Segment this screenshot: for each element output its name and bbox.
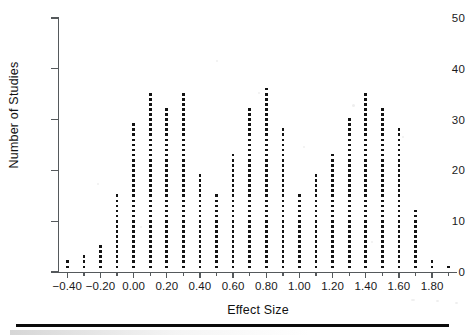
data-dot xyxy=(364,169,367,172)
data-dot xyxy=(165,225,168,228)
data-dot xyxy=(381,245,384,248)
data-dot xyxy=(315,184,318,187)
footer-rule xyxy=(16,324,449,327)
data-dot xyxy=(199,260,202,263)
data-dot xyxy=(348,235,351,238)
data-dot xyxy=(165,118,168,121)
data-dot xyxy=(232,260,235,263)
data-dot xyxy=(116,200,119,203)
data-dot xyxy=(149,98,152,101)
data-dot xyxy=(149,154,152,157)
data-dot xyxy=(414,210,417,213)
data-dot xyxy=(265,266,268,269)
x-tick-mark xyxy=(431,272,432,278)
data-dot xyxy=(149,103,152,106)
data-dot xyxy=(265,123,268,126)
data-dot xyxy=(215,220,218,223)
dot-column xyxy=(232,18,235,272)
data-dot xyxy=(315,230,318,233)
data-dot xyxy=(99,250,102,253)
data-dot xyxy=(199,255,202,258)
data-dot xyxy=(248,169,251,172)
dot-column xyxy=(282,18,285,272)
data-dot xyxy=(282,164,285,167)
dot-plot-figure: 01020304050 −0.40−0.200.000.200.400.600.… xyxy=(0,0,465,335)
data-dot xyxy=(215,205,218,208)
data-dot xyxy=(99,255,102,258)
data-dot xyxy=(116,194,119,197)
data-dot xyxy=(398,133,401,136)
data-dot xyxy=(381,144,384,147)
x-minor-tick-mark xyxy=(249,272,250,276)
data-dot xyxy=(364,93,367,96)
data-dot xyxy=(381,260,384,263)
data-dot xyxy=(132,169,135,172)
data-dot xyxy=(265,113,268,116)
data-dot xyxy=(199,200,202,203)
data-dot xyxy=(298,235,301,238)
scan-speckle xyxy=(411,299,415,301)
data-dot xyxy=(364,184,367,187)
data-dot xyxy=(165,245,168,248)
data-dot xyxy=(248,128,251,131)
dot-column xyxy=(248,18,251,272)
data-dot xyxy=(248,159,251,162)
data-dot xyxy=(398,255,401,258)
data-dot xyxy=(431,266,434,269)
data-dot xyxy=(149,240,152,243)
data-dot xyxy=(66,266,69,269)
data-dot xyxy=(265,194,268,197)
y-tick-mark xyxy=(51,221,58,222)
data-dot xyxy=(149,235,152,238)
data-dot xyxy=(149,215,152,218)
data-dot xyxy=(331,255,334,258)
data-dot xyxy=(83,260,86,263)
data-dot xyxy=(265,210,268,213)
data-dot xyxy=(248,255,251,258)
data-dot xyxy=(149,169,152,172)
data-dot xyxy=(149,164,152,167)
dot-column xyxy=(381,18,384,272)
data-dot xyxy=(182,123,185,126)
data-dot xyxy=(348,250,351,253)
data-dot xyxy=(398,260,401,263)
data-dot xyxy=(381,149,384,152)
data-dot xyxy=(364,144,367,147)
data-dot xyxy=(165,266,168,269)
data-dot xyxy=(248,220,251,223)
data-dot xyxy=(149,123,152,126)
data-dot xyxy=(398,128,401,131)
data-dot xyxy=(248,194,251,197)
data-dot xyxy=(149,245,152,248)
data-dot xyxy=(265,215,268,218)
data-dot xyxy=(398,194,401,197)
data-dot xyxy=(215,245,218,248)
data-dot xyxy=(331,245,334,248)
data-dot xyxy=(265,164,268,167)
x-minor-tick-mark xyxy=(116,272,117,276)
data-dot xyxy=(199,266,202,269)
data-dot xyxy=(364,103,367,106)
x-tick-label: 0.20 xyxy=(155,280,178,292)
data-dot xyxy=(232,266,235,269)
data-dot xyxy=(199,184,202,187)
data-dot xyxy=(331,189,334,192)
data-dot xyxy=(149,93,152,96)
data-dot xyxy=(364,266,367,269)
data-dot xyxy=(182,220,185,223)
data-dot xyxy=(265,118,268,121)
data-dot xyxy=(182,260,185,263)
data-dot xyxy=(298,210,301,213)
data-dot xyxy=(182,194,185,197)
data-dot xyxy=(165,260,168,263)
data-dot xyxy=(315,260,318,263)
data-dot xyxy=(116,220,119,223)
scan-speckle xyxy=(216,60,218,62)
data-dot xyxy=(248,235,251,238)
data-dot xyxy=(348,169,351,172)
data-dot xyxy=(298,200,301,203)
x-minor-tick-mark xyxy=(83,272,84,276)
data-dot xyxy=(248,174,251,177)
data-dot xyxy=(364,210,367,213)
data-dot xyxy=(132,250,135,253)
